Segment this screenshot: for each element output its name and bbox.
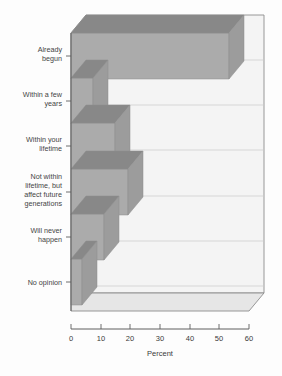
xtick-60: 60 [245, 334, 253, 343]
category-label-within-your-lifetime-line2: lifetime [39, 144, 62, 153]
xtick-40: 40 [186, 334, 194, 343]
category-label-already-begun-line2: begun [42, 54, 62, 63]
category-label-within-a-few-years-line2: years [44, 99, 62, 108]
value-axis-tick-marks [71, 324, 249, 329]
xtick-30: 30 [156, 334, 164, 343]
x-axis-title: Percent [147, 349, 174, 358]
chart-container: Already begun Within a few years Within … [0, 0, 282, 376]
category-label-not-within-lifetime-line4: generations [24, 199, 62, 208]
category-label-not-within-lifetime-line2: lifetime, but [25, 181, 62, 190]
category-label-already-begun: Already [38, 45, 63, 54]
category-label-not-within-lifetime-line3: affect future [24, 190, 62, 199]
value-axis-tick-labels: 0 10 20 30 40 50 60 [69, 334, 253, 343]
bar-chart-svg: Already begun Within a few years Within … [0, 0, 282, 376]
category-label-within-your-lifetime: Within your [26, 135, 63, 144]
category-label-will-never-happen-line2: happen [38, 235, 62, 244]
xtick-50: 50 [215, 334, 223, 343]
xtick-10: 10 [97, 334, 105, 343]
xtick-0: 0 [69, 334, 73, 343]
category-label-will-never-happen: Will never [30, 226, 62, 235]
category-tick-marks [66, 56, 71, 282]
category-label-not-within-lifetime: Not within [30, 172, 62, 181]
plot-floor [71, 293, 264, 311]
xtick-20: 20 [126, 334, 134, 343]
category-axis-labels: Already begun Within a few years Within … [23, 45, 63, 287]
category-label-within-a-few-years: Within a few [23, 90, 63, 99]
category-label-no-opinion: No opinion [28, 278, 62, 287]
